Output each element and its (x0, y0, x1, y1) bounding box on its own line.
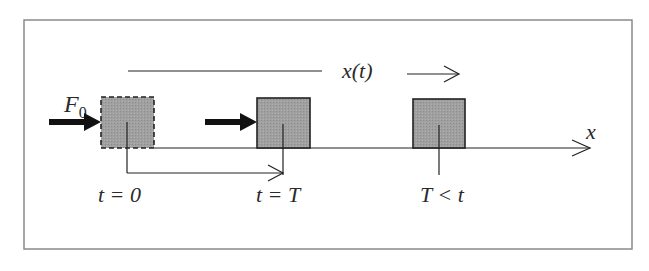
axis-label: x (585, 119, 596, 144)
time-label-T: t = T (256, 182, 302, 207)
time-label-after: T < t (420, 182, 465, 207)
position-label: x(t) (341, 58, 373, 83)
displacement-arrow-icon (407, 66, 459, 82)
motion-diagram: x(t) x F0 t = 0 t = T T < t (0, 0, 649, 271)
force-arrow-icon (205, 113, 257, 131)
x-axis (154, 140, 590, 156)
force-label: F0 (63, 91, 87, 121)
time-label-start: t = 0 (98, 182, 141, 207)
time-interval-arrow-icon (127, 165, 283, 181)
